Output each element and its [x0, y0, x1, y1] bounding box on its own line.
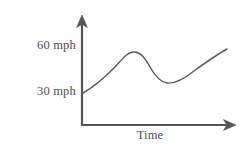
speed-curve	[83, 49, 227, 93]
graph-canvas: 60 mph 30 mph Time	[0, 0, 242, 145]
x-axis-label: Time	[137, 128, 164, 142]
y-tick-label-lower: 30 mph	[37, 84, 77, 98]
y-tick-label-upper: 60 mph	[37, 38, 77, 52]
speed-time-graph-figure: 60 mph 30 mph Time	[0, 0, 242, 145]
